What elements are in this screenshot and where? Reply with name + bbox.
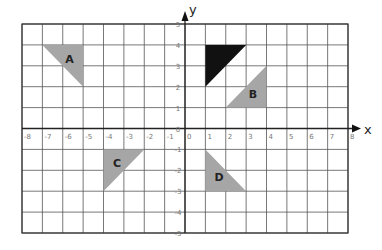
y-tick-label: 0 (176, 126, 180, 134)
x-tick-label: -2 (146, 133, 153, 141)
x-tick-label: 5 (289, 133, 293, 141)
x-tick-label: 3 (248, 133, 252, 141)
x-tick-label: -8 (24, 133, 31, 141)
x-tick-label: 2 (228, 133, 232, 141)
x-tick-label: 0 (187, 133, 191, 141)
y-tick-label: -1 (175, 146, 182, 154)
y-tick-label: -5 (175, 230, 182, 238)
y-tick-label: 3 (176, 63, 180, 71)
y-tick-label: -2 (175, 167, 182, 175)
x-tick-label: 8 (350, 133, 354, 141)
coordinate-grid-diagram: ABCD xy -8-7-6-5-4-3-2-1012345678543210-… (0, 0, 382, 250)
x-axis-arrow-icon (352, 125, 361, 133)
axes: xy (22, 2, 372, 233)
x-tick-label: 1 (207, 133, 211, 141)
y-tick-label: 1 (176, 105, 180, 113)
y-tick-label: 4 (176, 42, 181, 50)
y-axis-label: y (189, 2, 197, 17)
x-tick-label: -3 (126, 133, 133, 141)
shapes-layer: ABCD (42, 45, 266, 191)
y-tick-label: 5 (176, 21, 180, 29)
y-axis-arrow-icon (182, 11, 189, 21)
x-tick-label: -4 (106, 133, 114, 141)
x-axis-label: x (364, 122, 372, 137)
x-tick-label: -1 (167, 133, 174, 141)
x-tick-label: 4 (269, 133, 274, 141)
triangle-label-b: B (249, 88, 257, 101)
x-tick-label: -7 (44, 133, 51, 141)
x-tick-label: 6 (309, 133, 314, 141)
y-tick-label: 2 (176, 84, 180, 92)
triangle-label-c: C (113, 157, 121, 170)
x-tick-label: -5 (85, 133, 92, 141)
x-tick-label: -6 (65, 133, 73, 141)
triangle-label-d: D (214, 171, 223, 184)
x-tick-label: 7 (330, 133, 334, 141)
y-tick-label: -4 (175, 209, 183, 217)
triangle-label-a: A (65, 53, 74, 66)
y-tick-label: -3 (175, 188, 182, 196)
